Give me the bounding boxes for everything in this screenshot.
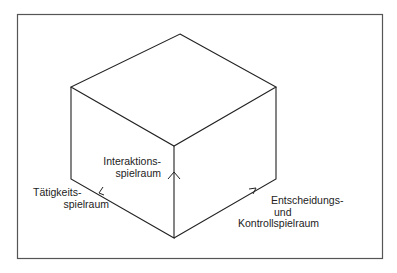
label-entscheidungsspielraum: Entscheidungs- und Kontrollspielraum: [238, 195, 343, 230]
cube-diagram: [0, 0, 397, 273]
label-taetigkeit-line1: Tätigkeits-: [30, 187, 109, 199]
label-taetigkeitsspielraum: Tätigkeits- spielraum: [30, 187, 109, 210]
label-interaktionsspielraum: Interaktions- spielraum: [88, 156, 161, 179]
label-interaktion-line1: Interaktions-: [88, 156, 161, 168]
cube-top-face: [71, 34, 276, 146]
diagram-canvas: Interaktions- spielraum Tätigkeits- spie…: [0, 0, 397, 273]
label-interaktion-line2: spielraum: [88, 168, 161, 180]
label-entscheidung-line3: Kontrollspielraum: [238, 218, 343, 230]
label-taetigkeit-line2: spielraum: [30, 199, 109, 211]
label-entscheidung-line1: Entscheidungs-: [238, 195, 343, 207]
